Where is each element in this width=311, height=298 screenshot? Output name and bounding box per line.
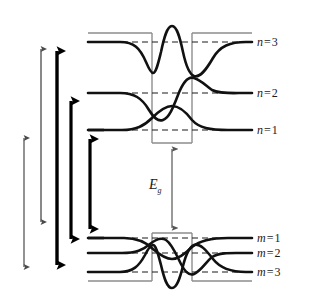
level-value-m2: 2 bbox=[274, 246, 280, 260]
transition-arrow-5 bbox=[88, 130, 104, 238]
band-gap-symbol: E bbox=[149, 177, 158, 192]
level-eq-n3: = bbox=[264, 35, 271, 49]
level-value-n3: 3 bbox=[272, 35, 278, 49]
level-eq-m3: = bbox=[267, 265, 274, 279]
upper-level-dashes bbox=[92, 42, 250, 130]
quantum-well-energy-diagram: n=3 n=2 n=1 m=1 m=2 m=3 Eg bbox=[0, 0, 311, 298]
level-eq-m2: = bbox=[267, 246, 274, 260]
level-symbol-n3: n bbox=[257, 35, 263, 49]
level-value-n1: 1 bbox=[272, 123, 278, 137]
level-value-m1: 1 bbox=[274, 231, 280, 245]
level-symbol-n1: n bbox=[257, 123, 263, 137]
level-eq-m1: = bbox=[267, 231, 274, 245]
level-value-m3: 3 bbox=[274, 265, 280, 279]
upper-well-barrier bbox=[88, 33, 252, 143]
level-value-n2: 2 bbox=[272, 86, 278, 100]
level-label-m3: m=3 bbox=[257, 266, 280, 278]
wavefunction-m1 bbox=[88, 238, 252, 259]
level-symbol-n2: n bbox=[257, 86, 263, 100]
level-label-n1: n=1 bbox=[257, 124, 278, 136]
lower-level-dashes bbox=[92, 238, 250, 272]
band-gap-label: Eg bbox=[149, 178, 162, 195]
level-symbol-m1: m bbox=[257, 231, 266, 245]
level-label-n2: n=2 bbox=[257, 87, 278, 99]
level-label-n3: n=3 bbox=[257, 36, 278, 48]
wavefunction-n1 bbox=[88, 106, 252, 130]
wavefunction-n2 bbox=[88, 78, 252, 121]
level-eq-n2: = bbox=[264, 86, 271, 100]
band-gap-subscript: g bbox=[158, 186, 162, 195]
level-eq-n1: = bbox=[264, 123, 271, 137]
lower-well-barrier bbox=[88, 233, 252, 281]
level-label-m1: m=1 bbox=[257, 232, 280, 244]
level-symbol-m3: m bbox=[257, 265, 266, 279]
level-label-m2: m=2 bbox=[257, 247, 280, 259]
level-symbol-m2: m bbox=[257, 246, 266, 260]
